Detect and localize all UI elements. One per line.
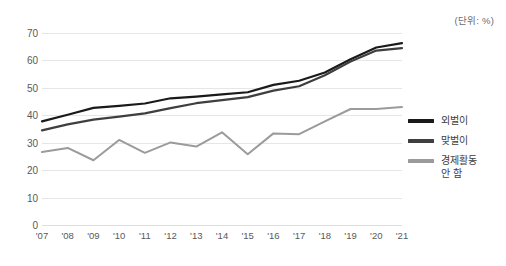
x-axis-labels: '07'08'09'10'11'12'13'14'15'16'17'18'19'…: [42, 230, 402, 246]
chart-container: (단위: %) 010203040506070 '07'08'09'10'11'…: [0, 0, 506, 266]
legend-label: 외벌이: [441, 114, 468, 127]
chart-legend: 외벌이맞벌이경제활동 안 함: [408, 114, 500, 187]
x-axis-tick-19: '19: [344, 230, 356, 241]
x-axis-tick-09: '09: [87, 230, 99, 241]
y-axis-labels: 010203040506070: [0, 33, 38, 225]
legend-label: 경제활동 안 함: [441, 154, 477, 180]
legend-item-2[interactable]: 경제활동 안 함: [408, 154, 500, 180]
x-axis-tick-21: '21: [396, 230, 408, 241]
gridline-0: [42, 225, 402, 226]
x-axis-tick-16: '16: [267, 230, 279, 241]
x-axis-tick-07: '07: [36, 230, 48, 241]
y-axis-tick-60: 60: [6, 55, 38, 66]
x-axis-tick-08: '08: [62, 230, 74, 241]
legend-swatch-icon: [408, 139, 434, 143]
series-line-경제활동-안-함: [42, 107, 402, 160]
x-axis-tick-15: '15: [242, 230, 254, 241]
legend-swatch-icon: [408, 159, 434, 163]
y-axis-tick-40: 40: [6, 110, 38, 121]
x-axis-tick-11: '11: [139, 230, 151, 241]
unit-note: (단위: %): [455, 13, 494, 27]
y-axis-tick-10: 10: [6, 192, 38, 203]
y-axis-tick-30: 30: [6, 137, 38, 148]
legend-swatch-icon: [408, 119, 434, 123]
y-axis-tick-0: 0: [6, 220, 38, 231]
x-axis-tick-18: '18: [319, 230, 331, 241]
y-axis-tick-50: 50: [6, 82, 38, 93]
x-axis-tick-10: '10: [113, 230, 125, 241]
legend-label: 맞벌이: [441, 134, 468, 147]
x-axis-tick-13: '13: [190, 230, 202, 241]
y-axis-tick-70: 70: [6, 28, 38, 39]
x-axis-tick-17: '17: [293, 230, 305, 241]
legend-item-1[interactable]: 맞벌이: [408, 134, 500, 147]
plot-area: [42, 33, 402, 225]
series-lines: [42, 33, 402, 225]
y-axis-tick-20: 20: [6, 165, 38, 176]
x-axis-tick-20: '20: [370, 230, 382, 241]
legend-item-0[interactable]: 외벌이: [408, 114, 500, 127]
x-axis-tick-14: '14: [216, 230, 228, 241]
x-axis-tick-12: '12: [164, 230, 176, 241]
